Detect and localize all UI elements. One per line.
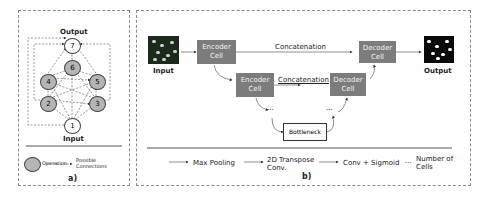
node-4: 4 (40, 74, 57, 90)
ellipsis-right: ... (326, 104, 333, 112)
legend-conv-sigmoid: Conv + Sigmoid (343, 159, 399, 167)
legend-transpose-l1: 2D Transpose (267, 156, 314, 164)
ellipsis-left: ... (267, 104, 274, 112)
legend-max-pooling: Max Pooling (193, 159, 235, 167)
encoder-cell-1: EncoderCell (197, 40, 236, 64)
input-label-a: Input (63, 135, 84, 143)
operation-legend-icon (24, 157, 41, 172)
decoder-cell-2: DecoderCell (330, 73, 366, 96)
connections-legend-l2: Connections (76, 163, 107, 169)
node-3: 3 (89, 96, 106, 112)
node-5: 5 (89, 74, 106, 90)
node-7: 7 (64, 38, 81, 54)
node-6: 6 (64, 60, 81, 76)
encoder-cell-2: EncoderCell (236, 73, 274, 97)
output-image (424, 36, 454, 63)
input-label-b: Input (153, 67, 174, 75)
node-2: 2 (40, 96, 57, 112)
bottleneck-box: Bottleneck (283, 123, 327, 141)
panel-b-label: b) (302, 172, 311, 181)
legend-cells-l1: Number of (416, 155, 453, 163)
legend-transpose-l2: Conv. (267, 164, 286, 172)
legend-cells-dots: ... (405, 157, 412, 165)
operation-legend-label: Operation (42, 160, 67, 166)
input-image (148, 36, 179, 64)
decoder-cell-1: DecoderCell (359, 41, 396, 63)
output-label-b: Output (424, 67, 452, 75)
concatenation-label-2: Concatenation (278, 76, 329, 84)
output-label-a: Output (60, 28, 88, 36)
node-1: 1 (64, 118, 81, 134)
concatenation-label-1: Concatenation (275, 43, 326, 51)
panel-a-label: a) (68, 174, 77, 183)
legend-cells-l2: Cells (416, 163, 433, 171)
